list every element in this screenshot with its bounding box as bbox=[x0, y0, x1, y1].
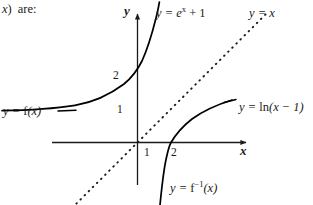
inverse-function-label: y = f−1(x) bbox=[170, 181, 217, 196]
ln-label-argument: (x − 1) bbox=[269, 100, 304, 114]
exponential-curve bbox=[2, 2, 159, 111]
intro-paren: ) bbox=[8, 2, 12, 16]
identity-line-label: y = x bbox=[249, 6, 275, 21]
intro-text-fragment: x)are: bbox=[2, 3, 36, 16]
f-label-leader-line bbox=[58, 110, 76, 111]
f-function-label: y = f(x) bbox=[3, 104, 41, 119]
y-tick-label-1: 1 bbox=[117, 103, 123, 115]
exponential-curve-label: y = ex + 1 bbox=[156, 6, 206, 21]
ln-label-lhs: y = bbox=[239, 100, 259, 114]
finv-label-argument: (x) bbox=[203, 181, 217, 195]
x-axis-label: x bbox=[240, 144, 247, 157]
logarithm-curve-label: y = ln(x − 1) bbox=[239, 100, 304, 115]
y-tick-label-2: 2 bbox=[113, 69, 119, 81]
ln-label-function: ln bbox=[259, 100, 269, 114]
x-tick-label-2: 2 bbox=[171, 146, 177, 158]
intro-word: are: bbox=[18, 2, 37, 16]
function-graph-figure: x)are: x y 2 1 1 2 y = ex + 1 y = x y = … bbox=[0, 0, 313, 205]
exp-label-suffix: + 1 bbox=[186, 6, 206, 20]
exp-label-lhs: y = e bbox=[156, 6, 182, 20]
y-axis-label: y bbox=[124, 4, 130, 17]
f-label-argument: (x) bbox=[27, 104, 41, 118]
f-label-lhs: y = bbox=[3, 104, 23, 118]
x-tick-label-1: 1 bbox=[144, 146, 150, 158]
finv-label-lhs: y = bbox=[170, 181, 190, 195]
